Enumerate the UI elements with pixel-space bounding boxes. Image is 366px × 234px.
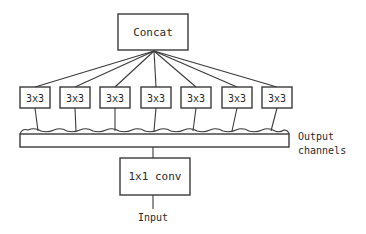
branch-edges — [35, 108, 277, 131]
branch-to-channel-edge — [232, 108, 237, 131]
branch-node: 3x3 — [222, 87, 252, 108]
branch-node: 3x3 — [181, 87, 211, 108]
branch-label: 3x3 — [66, 93, 84, 104]
concat-to-branch-edge — [35, 51, 154, 87]
branch-node: 3x3 — [60, 87, 90, 108]
concat-to-branch-edge — [154, 51, 156, 87]
input-label: Input — [138, 212, 168, 223]
branch-label: 3x3 — [147, 93, 165, 104]
branch-to-channel-edge — [193, 108, 196, 131]
output-channel-bar — [20, 134, 289, 147]
output-channels-label-line2: channels — [298, 145, 346, 156]
branch-to-channel-edge — [271, 108, 277, 131]
branch-label: 3x3 — [228, 93, 246, 104]
branch-label: 3x3 — [187, 93, 205, 104]
branch-nodes: 3x33x33x33x33x33x33x3 — [20, 87, 292, 108]
branch-node: 3x3 — [100, 87, 130, 108]
branch-to-channel-edge — [75, 108, 76, 131]
branch-to-channel-edge — [154, 108, 156, 131]
branch-node: 3x3 — [141, 87, 171, 108]
branch-label: 3x3 — [268, 93, 286, 104]
diagram-canvas: Concat 3x33x33x33x33x33x33x3 Output chan… — [0, 0, 366, 234]
branch-node: 3x3 — [262, 87, 292, 108]
conv1x1-node: 1x1 conv — [120, 158, 190, 195]
branch-label: 3x3 — [106, 93, 124, 104]
concat-to-branch-edge — [154, 51, 277, 87]
branch-label: 3x3 — [26, 93, 44, 104]
concat-to-branch-edge — [154, 51, 237, 87]
branch-to-channel-edge — [35, 108, 38, 131]
concat-label: Concat — [133, 26, 173, 39]
concat-to-branch-edge — [154, 51, 196, 87]
concat-edges — [35, 51, 277, 87]
concat-node: Concat — [118, 14, 188, 50]
concat-to-branch-edge — [75, 51, 154, 87]
conv1x1-label: 1x1 conv — [129, 170, 182, 183]
branch-node: 3x3 — [20, 87, 50, 108]
output-channels-label-line1: Output — [298, 131, 334, 142]
